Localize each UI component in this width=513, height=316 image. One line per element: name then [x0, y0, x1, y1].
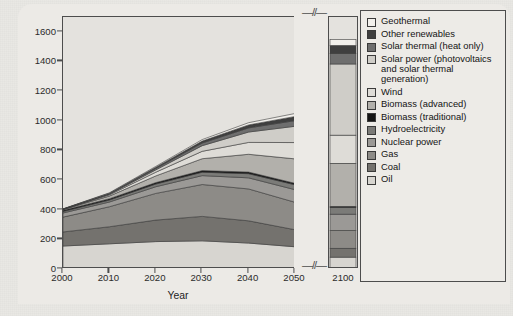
y-tick-mark	[57, 149, 62, 150]
legend: GeothermalOther renewablesSolar thermal …	[360, 10, 506, 282]
legend-item[interactable]: Geothermal	[367, 16, 501, 27]
bar-segment-2100	[330, 257, 356, 268]
x-tick-label: 2010	[98, 272, 119, 283]
bar-segment-2100	[330, 248, 356, 257]
legend-swatch-icon	[367, 176, 376, 185]
x-tick-label: 2050	[283, 272, 304, 283]
x-tick-mark	[108, 268, 109, 273]
y-tick-mark	[57, 178, 62, 179]
legend-swatch-icon	[367, 88, 376, 97]
x-axis-label: Year	[62, 290, 294, 301]
legend-swatch-icon	[367, 55, 376, 64]
y-tick-mark	[57, 238, 62, 239]
area-series	[63, 241, 294, 268]
x-tick-mark	[61, 268, 62, 273]
bar-segment-2100	[330, 64, 356, 135]
x-tick-label: 2020	[144, 272, 165, 283]
legend-item[interactable]: Solar power (photovoltaics and solar the…	[367, 54, 501, 85]
stacked-bar-2100	[329, 17, 358, 268]
legend-swatch-icon	[367, 101, 376, 110]
legend-item-label: Gas	[381, 149, 398, 159]
x-tick-label: 2030	[191, 272, 212, 283]
bar-segment-2100	[330, 207, 356, 214]
y-tick-mark	[57, 60, 62, 61]
x-tick-label: 2000	[51, 272, 72, 283]
legend-swatch-icon	[367, 43, 376, 52]
legend-swatch-icon	[367, 151, 376, 160]
legend-swatch-icon	[367, 163, 376, 172]
x-tick-mark	[201, 268, 202, 273]
legend-item[interactable]: Other renewables	[367, 29, 501, 40]
y-tick-mark	[57, 90, 62, 91]
axes-2100-panel	[328, 16, 358, 268]
legend-item-label: Biomass (traditional)	[381, 112, 466, 122]
legend-swatch-icon	[367, 113, 376, 122]
legend-item[interactable]: Hydroelectricity	[367, 124, 501, 135]
legend-item-label: Nuclear power	[381, 137, 441, 147]
legend-item-label: Hydroelectricity	[381, 124, 445, 134]
legend-item-label: Coal	[381, 162, 400, 172]
legend-item[interactable]: Gas	[367, 149, 501, 160]
legend-item[interactable]: Nuclear power	[367, 137, 501, 148]
legend-swatch-icon	[367, 126, 376, 135]
bar-segment-2100	[330, 163, 356, 206]
axis-break-bottom: —//—	[302, 259, 326, 271]
x-tick-mark	[247, 268, 248, 273]
stacked-area-main	[63, 17, 294, 268]
y-tick-mark	[57, 119, 62, 120]
bar-segment-2100	[330, 54, 356, 64]
legend-item-label: Other renewables	[381, 29, 455, 39]
x-tick-label: 2040	[237, 272, 258, 283]
x-tick-mark	[154, 268, 155, 273]
legend-item[interactable]: Biomass (advanced)	[367, 99, 501, 110]
axis-break-top: —//—	[302, 6, 326, 18]
legend-item[interactable]: Oil	[367, 174, 501, 185]
x-tick-label: 2100	[332, 272, 353, 283]
main-axes	[62, 16, 294, 268]
legend-item[interactable]: Biomass (traditional)	[367, 112, 501, 123]
legend-item-label: Oil	[381, 174, 392, 184]
legend-item[interactable]: Wind	[367, 87, 501, 98]
legend-item[interactable]: Solar thermal (heat only)	[367, 41, 501, 52]
plot-area: 02004006008001000120014001600 2000201020…	[62, 16, 348, 268]
bar-segment-2100	[330, 214, 356, 230]
legend-swatch-icon	[367, 18, 376, 27]
legend-item[interactable]: Coal	[367, 162, 501, 173]
legend-item-label: Solar power (photovoltaics and solar the…	[381, 54, 501, 85]
legend-item-label: Geothermal	[381, 16, 430, 26]
bar-segment-2100	[330, 40, 356, 46]
legend-swatch-icon	[367, 138, 376, 147]
legend-swatch-icon	[367, 30, 376, 39]
bar-segment-2100	[330, 230, 356, 248]
y-tick-mark	[57, 208, 62, 209]
y-tick-mark	[57, 30, 62, 31]
x-tick-mark	[293, 268, 294, 273]
legend-item-label: Wind	[381, 87, 402, 97]
legend-item-label: Biomass (advanced)	[381, 99, 466, 109]
bar-segment-2100	[330, 45, 356, 53]
legend-item-label: Solar thermal (heat only)	[381, 41, 484, 51]
bar-segment-2100	[330, 135, 356, 163]
